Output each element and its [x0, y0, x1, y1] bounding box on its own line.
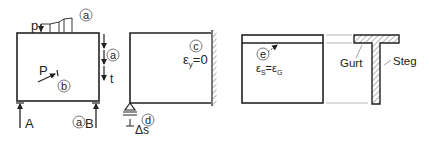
point-load-label: P [39, 63, 48, 78]
marker-e: e [260, 48, 266, 60]
plate-outline-2 [130, 33, 211, 103]
support-a-icon [16, 103, 24, 128]
panel-4-t-section: Gurt Steg [340, 35, 417, 104]
wall-hatching-icon [213, 30, 217, 106]
edge-load-label-t: t [110, 72, 114, 86]
support-label-b: B [85, 116, 94, 131]
panel-1-loaded-plate: p a P b a t A a B [16, 9, 119, 131]
pointer-arrow-icon [268, 45, 277, 52]
marker-a-bottom: a [76, 116, 83, 128]
load-label-p: p [31, 18, 38, 33]
support-label-a: A [25, 116, 34, 131]
web-leader-line [384, 60, 391, 65]
marker-c: c [193, 40, 199, 52]
web-label: Steg [393, 55, 417, 67]
t-section-shape [354, 35, 399, 104]
panel-2-constrained-plate: c εy=0 d Δs [123, 30, 217, 137]
strain-y-label: εy=0 [183, 52, 208, 69]
marker-a-top: a [83, 9, 90, 21]
panel-3-beam-elevation: e εS=εG [242, 35, 368, 103]
marker-a-edge: a [110, 49, 117, 61]
flange-label: Gurt [340, 57, 363, 69]
strain-compatibility-label: εS=εG [256, 62, 282, 76]
structural-diagram: p a P b a t A a B [0, 0, 429, 143]
plate-outline [17, 33, 99, 101]
settlement-label: Δs [135, 123, 149, 137]
distributed-load-icon [41, 18, 72, 32]
marker-b: b [61, 80, 67, 92]
beam-outline [242, 35, 323, 103]
